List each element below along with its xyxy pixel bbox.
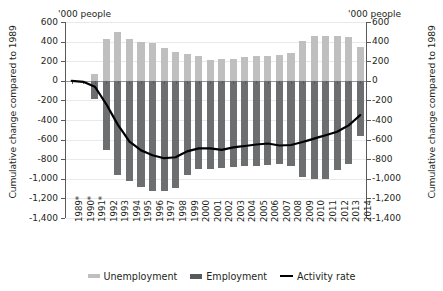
- x-tick-label: 2008: [294, 200, 303, 222]
- y-axis-tick: [61, 100, 65, 101]
- y-tick-label-right: 400: [372, 37, 389, 46]
- y-tick-label-right: -1,000: [372, 174, 401, 183]
- x-tick-label: 2003: [237, 200, 246, 222]
- y-axis-tick: [61, 159, 65, 160]
- plot-area: [66, 22, 366, 218]
- y-tick-label-left: -1,000: [29, 174, 58, 183]
- chart-legend: Unemployment Employment Activity rate: [0, 266, 443, 286]
- y-tick-label-left: 600: [41, 18, 58, 27]
- x-tick-label: 2007: [283, 200, 292, 222]
- x-tick-label: 2010: [317, 200, 326, 222]
- x-tick-label: 1999: [191, 200, 200, 222]
- activity-rate-path: [72, 81, 360, 158]
- x-tick-label: 1993: [121, 200, 130, 222]
- x-tick-label: 2002: [225, 200, 234, 222]
- y-tick-label-right: 0: [372, 76, 378, 85]
- x-tick-label: 1996: [156, 200, 165, 222]
- y-tick-label-right: -800: [372, 155, 392, 164]
- x-tick-label: 2001: [214, 200, 223, 222]
- swatch-employment-icon: [190, 274, 202, 279]
- y-tick-label-left: -400: [38, 116, 58, 125]
- y-tick-label-left: -1,400: [29, 214, 58, 223]
- swatch-unemployment-icon: [88, 274, 100, 278]
- y-axis-tick: [367, 159, 371, 160]
- y-axis-tick: [61, 140, 65, 141]
- x-tick-label: 1992: [110, 200, 119, 222]
- y-tick-label-left: 200: [41, 57, 58, 66]
- y-axis-tick: [367, 42, 371, 43]
- x-tick-label: 1997: [167, 200, 176, 222]
- x-tick-label: 1994: [133, 200, 142, 222]
- x-tick-label: 1990*: [87, 196, 96, 222]
- y-axis-label-right: Cumulative change compared to 1989: [426, 71, 437, 199]
- y-tick-label-left: -800: [38, 155, 58, 164]
- y-tick-label-right: 600: [372, 18, 389, 27]
- y-tick-label-left: -1,200: [29, 194, 58, 203]
- x-tick-label: 2004: [248, 200, 257, 222]
- y-axis-tick: [367, 120, 371, 121]
- y-axis-tick: [367, 61, 371, 62]
- y-tick-label-right: -1,200: [372, 194, 401, 203]
- legend-label-activity-rate: Activity rate: [297, 271, 355, 282]
- y-axis-tick: [367, 140, 371, 141]
- y-tick-label-left: 400: [41, 37, 58, 46]
- y-tick-label-right: -1,400: [372, 214, 401, 223]
- y-axis-tick: [367, 100, 371, 101]
- y-axis-tick: [61, 61, 65, 62]
- x-tick-label: 2013: [352, 200, 361, 222]
- legend-label-employment: Employment: [206, 271, 267, 282]
- x-tick-label: 1989*: [75, 196, 84, 222]
- y-axis-tick: [61, 179, 65, 180]
- y-tick-label-right: -400: [372, 116, 392, 125]
- y-axis-tick: [367, 179, 371, 180]
- y-axis-tick: [367, 22, 371, 23]
- legend-label-unemployment: Unemployment: [104, 271, 178, 282]
- y-tick-label-left: -200: [38, 96, 58, 105]
- units-label-left: '000 people: [58, 9, 111, 19]
- y-axis-tick: [61, 198, 65, 199]
- x-tick-label: 2006: [271, 200, 280, 222]
- activity-rate-line: [66, 22, 366, 218]
- x-tick-label: 2009: [306, 200, 315, 222]
- x-tick-label: 1991*: [98, 196, 107, 222]
- y-axis-tick: [61, 120, 65, 121]
- y-axis-tick: [61, 42, 65, 43]
- y-axis-tick: [61, 81, 65, 82]
- legend-item-unemployment: Unemployment: [88, 271, 178, 282]
- y-tick-label-right: -600: [372, 135, 392, 144]
- x-tick-label: 2012: [341, 200, 350, 222]
- y-axis-tick-labels-right: 6004002000-200-400-600-800-1,000-1,200-1…: [372, 22, 416, 218]
- legend-item-activity-rate: Activity rate: [280, 271, 355, 282]
- y-tick-label-left: -600: [38, 135, 58, 144]
- x-axis-tick-labels: 1989*1990*1991*1992199319941995199619971…: [66, 221, 366, 265]
- x-tick-label: 1998: [179, 200, 188, 222]
- y-axis-tick: [367, 81, 371, 82]
- y-axis-tick: [61, 22, 65, 23]
- x-tick-label: 2000: [202, 200, 211, 222]
- x-tick-label: 2014: [364, 200, 373, 222]
- chart-container: Cumulative change compared to 1989 Cumul…: [0, 0, 443, 291]
- legend-item-employment: Employment: [190, 271, 267, 282]
- y-tick-label-right: -200: [372, 96, 392, 105]
- x-tick-label: 2005: [260, 200, 269, 222]
- y-axis-tick: [61, 218, 65, 219]
- y-tick-label-right: 200: [372, 57, 389, 66]
- swatch-activity-line-icon: [280, 275, 293, 277]
- y-axis-tick-labels-left: 6004002000-200-400-600-800-1,000-1,200-1…: [0, 22, 58, 218]
- y-tick-label-left: 0: [52, 76, 58, 85]
- x-tick-label: 2011: [329, 200, 338, 222]
- x-tick-label: 1995: [144, 200, 153, 222]
